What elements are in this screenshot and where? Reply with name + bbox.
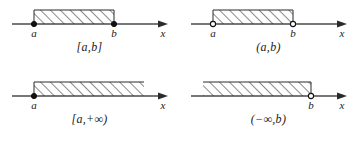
interval-band bbox=[34, 82, 144, 96]
endpoint-right-filled-dot bbox=[111, 21, 116, 26]
axis-label: x bbox=[339, 99, 345, 111]
endpoint-left-label: a bbox=[31, 27, 37, 39]
endpoint-left-filled-dot bbox=[31, 93, 36, 98]
axis-label: x bbox=[339, 27, 345, 39]
interval-band bbox=[203, 82, 311, 96]
interval-band bbox=[213, 10, 293, 24]
endpoint-right-open-circle bbox=[308, 93, 313, 98]
panel-closed-interval: a b x [a,b] bbox=[0, 0, 179, 72]
endpoint-left-filled-dot bbox=[31, 21, 36, 26]
endpoint-right-label: b bbox=[290, 27, 296, 39]
axis-label: x bbox=[160, 99, 166, 111]
panel-caption: (a,b) bbox=[179, 40, 358, 55]
axis-label: x bbox=[160, 27, 166, 39]
endpoint-right-label: b bbox=[111, 27, 117, 39]
endpoint-left-label: a bbox=[31, 99, 37, 111]
panel-open-interval: a b x (a,b) bbox=[179, 0, 358, 72]
panel-closed-ray-right: a x [a,+∞) bbox=[0, 72, 179, 144]
endpoint-right-open-circle bbox=[290, 21, 295, 26]
interval-band bbox=[34, 10, 114, 24]
endpoint-right-label: b bbox=[308, 99, 314, 111]
panel-caption: [a,+∞) bbox=[0, 112, 179, 127]
panel-caption: (−∞,b) bbox=[179, 112, 358, 127]
panel-caption: [a,b] bbox=[0, 40, 179, 55]
panel-open-ray-left: b x (−∞,b) bbox=[179, 72, 358, 144]
endpoint-left-open-circle bbox=[210, 21, 215, 26]
endpoint-left-label: a bbox=[210, 27, 216, 39]
interval-diagram-sheet: a b x [a,b] a bbox=[0, 0, 358, 145]
